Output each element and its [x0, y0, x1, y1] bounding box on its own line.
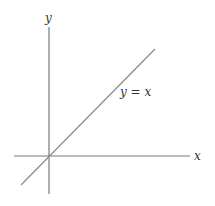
line-label: y = x — [119, 85, 151, 99]
identity-line — [21, 49, 155, 185]
x-axis-label: x — [194, 149, 201, 163]
diagram: y x y = x — [0, 0, 215, 206]
y-axis-label: y — [44, 11, 52, 25]
